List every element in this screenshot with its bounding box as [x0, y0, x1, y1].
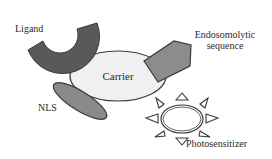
ray-icon — [146, 114, 158, 123]
ray-icon — [156, 98, 164, 108]
carrier-label: Carrier — [102, 70, 133, 82]
photosensitizer-label: Photosensitizer — [186, 138, 248, 149]
diagram-canvas: Ligand Carrier Endosomolytic sequence NL… — [0, 0, 272, 159]
diagram-svg: Ligand Carrier Endosomolytic sequence NL… — [0, 0, 272, 159]
ray-icon — [206, 114, 218, 123]
ray-icon — [155, 131, 165, 137]
ray-icon — [176, 93, 188, 100]
ray-icon — [199, 131, 210, 137]
ray-icon — [200, 98, 208, 108]
endosomolytic-label-line2: sequence — [207, 40, 244, 51]
ligand-label: Ligand — [15, 23, 43, 34]
endosomolytic-label-line1: Endosomolytic — [195, 29, 256, 40]
nls-label: NLS — [38, 102, 57, 113]
